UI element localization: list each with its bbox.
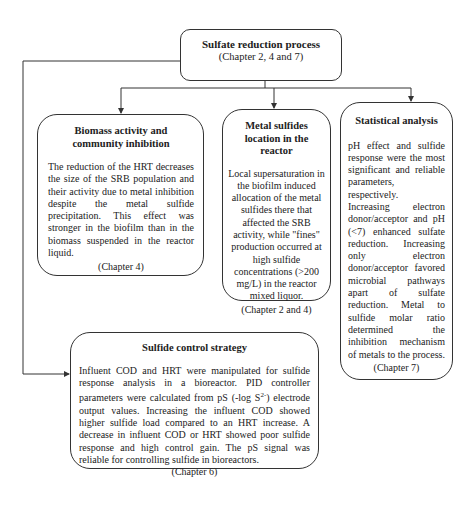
node-biomass-activity: Biomass activity and community inhibitio… <box>37 114 204 276</box>
root-node: Sulfate reduction process (Chapter 2, 4 … <box>180 29 342 81</box>
node-title: Biomass activity and community inhibitio… <box>48 125 194 150</box>
root-chapter: (Chapter 2, 4 and 7) <box>181 51 341 63</box>
node-text: pH effect and sulfide response were the … <box>348 140 445 201</box>
node-text: The reduction of the HRT decreases the s… <box>48 161 194 259</box>
node-metal-sulfides: Metal sulfides location in the reactor L… <box>222 109 331 301</box>
node-chapter: (Chapter 4) <box>48 261 194 273</box>
node-title: Sulfide control strategy <box>79 342 310 355</box>
node-text: Local supersaturation in the biofilm ind… <box>228 168 325 303</box>
node-text: Influent COD and HRT were manipulated fo… <box>79 365 310 467</box>
root-title: Sulfate reduction process <box>181 38 341 51</box>
node-title: Metal sulfides location in the reactor <box>228 120 325 158</box>
node-sulfide-control: Sulfide control strategy Influent COD an… <box>70 332 319 469</box>
node-statistical-analysis: Statistical analysis pH effect and sulfi… <box>340 102 453 380</box>
node-chapter: (Chapter 7) <box>348 362 445 374</box>
node-chapter: (Chapter 6) <box>79 466 310 478</box>
node-text: Increasing electron donor/acceptor and p… <box>348 201 445 361</box>
node-chapter: (Chapter 2 and 4) <box>228 304 325 316</box>
node-title: Statistical analysis <box>348 115 445 128</box>
